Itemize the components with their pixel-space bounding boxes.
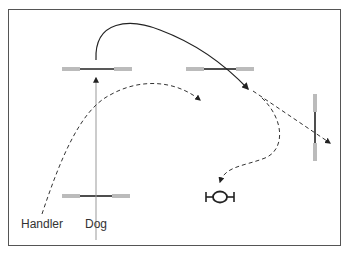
jump-start (62, 67, 132, 71)
dog-label: Dog (85, 217, 107, 231)
tire-icon (206, 192, 234, 203)
dog-return-path (220, 98, 280, 182)
dog-jump-path (96, 24, 248, 89)
dog-continue-path (253, 91, 330, 143)
handler-label: Handler (21, 217, 63, 231)
jump-top-right (186, 67, 254, 71)
jump-right-vertical (313, 94, 317, 161)
